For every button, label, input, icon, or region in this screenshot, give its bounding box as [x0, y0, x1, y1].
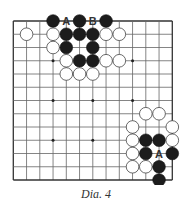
black-stone: [153, 134, 166, 147]
star-point: [131, 59, 134, 62]
black-stone: [86, 54, 99, 67]
white-stone: [60, 68, 73, 81]
black-stone: [153, 160, 166, 173]
white-stone: [113, 54, 126, 67]
white-stone: [139, 160, 152, 173]
white-stone: [126, 121, 139, 134]
white-stone: [153, 107, 166, 120]
white-stone: [139, 107, 152, 120]
black-stone: [73, 15, 86, 28]
white-stone: [126, 160, 139, 173]
white-stone: [100, 28, 113, 41]
star-point: [52, 139, 55, 142]
black-stone: [60, 41, 73, 54]
star-point: [52, 99, 55, 102]
black-stone: [139, 134, 152, 147]
black-stone: [86, 41, 99, 54]
black-stone: [100, 15, 113, 28]
white-stone: [126, 134, 139, 147]
go-board-diagram: ABA: [0, 0, 192, 185]
white-stone: [20, 28, 33, 41]
go-board: ABA: [0, 0, 192, 185]
black-stone: [139, 147, 152, 160]
white-stone: [86, 68, 99, 81]
black-stone: [60, 28, 73, 41]
black-stone: [153, 174, 166, 185]
white-stone: [113, 28, 126, 41]
point-label: A: [62, 15, 70, 27]
star-point: [131, 99, 134, 102]
black-stone: [73, 28, 86, 41]
star-point: [91, 99, 94, 102]
diagram-caption: Dia. 4: [0, 185, 192, 205]
white-stone: [73, 68, 86, 81]
white-stone: [100, 54, 113, 67]
point-label: B: [89, 15, 97, 27]
black-stone: [73, 54, 86, 67]
black-stone: [166, 147, 179, 160]
white-stone: [47, 41, 60, 54]
star-point: [52, 59, 55, 62]
black-stone: [47, 15, 60, 28]
star-point: [91, 139, 94, 142]
white-stone: [47, 28, 60, 41]
white-stone: [166, 134, 179, 147]
white-stone: [166, 121, 179, 134]
white-stone: [60, 54, 73, 67]
point-label: A: [155, 148, 163, 160]
black-stone: [86, 28, 99, 41]
white-stone: [126, 147, 139, 160]
